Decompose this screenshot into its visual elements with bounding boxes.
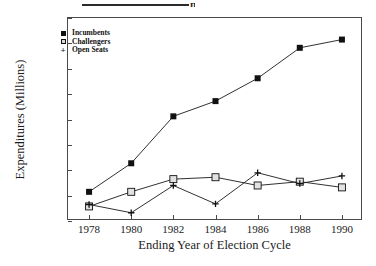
data-point-marker (128, 188, 135, 195)
data-point-marker (255, 75, 261, 81)
plus-icon: + (57, 46, 69, 55)
data-point-marker (86, 189, 92, 195)
x-axis-title: Ending Year of Election Cycle (67, 238, 362, 253)
data-point-marker (297, 45, 303, 51)
y-tick-mark (68, 221, 72, 222)
data-point-marker (339, 173, 345, 179)
data-point-marker (170, 113, 176, 119)
legend-label: Open Seats (72, 46, 108, 55)
data-point-marker (212, 174, 219, 181)
data-point-marker (170, 176, 177, 183)
legend-item-open-seats: +Open Seats (57, 46, 110, 55)
y-axis-title: Expenditures (Millions) (13, 25, 28, 215)
data-point-marker (170, 182, 176, 188)
data-point-marker (254, 170, 260, 176)
data-point-marker (213, 98, 219, 104)
filled-square-icon (57, 31, 69, 36)
plot-area: 20406080100120140160180 1978198019821984… (67, 17, 362, 220)
chart-legend: IncumbentsChallengers+Open Seats (57, 29, 110, 55)
open-square-icon (57, 39, 69, 44)
figure-expenditures-by-candidate-type: п Expenditures (Millions) Ending Year of… (0, 0, 376, 266)
series-incumbents (86, 37, 345, 195)
data-point-marker (338, 184, 345, 191)
data-series-layer (68, 18, 363, 221)
cropped-header-rule (82, 4, 189, 6)
data-point-marker (128, 160, 134, 166)
data-point-marker (128, 210, 134, 216)
cropped-header-text: п (190, 0, 195, 7)
data-point-marker (212, 201, 218, 207)
x-tick-label: 1990 (317, 224, 367, 235)
data-point-marker (339, 37, 345, 43)
series-line (89, 40, 342, 192)
data-point-marker (254, 182, 261, 189)
